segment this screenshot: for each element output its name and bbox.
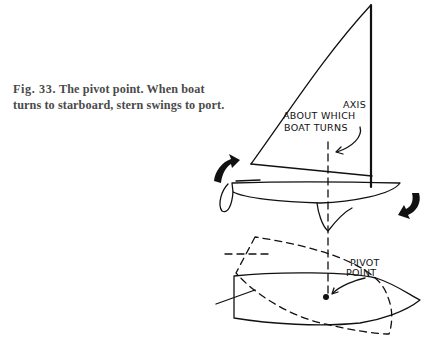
pivot-label-line2: POINT — [346, 267, 376, 278]
hull-side — [232, 182, 400, 203]
axis-label-line1: AXIS — [343, 99, 366, 110]
axis-label-line3: BOAT TURNS — [284, 122, 348, 133]
keel — [317, 203, 352, 231]
boom — [251, 164, 372, 176]
rudder — [220, 184, 233, 212]
turn-arrow-left-icon — [214, 154, 240, 183]
axis-label-line2: ABOUT WHICH — [283, 110, 356, 121]
pivot-pointer — [333, 278, 365, 293]
turn-arrow-right-icon — [398, 193, 420, 219]
deck-line — [236, 180, 260, 181]
sail-leech — [251, 6, 370, 164]
pivot-point-illustration: AXIS ABOUT WHICH BOAT TURNS PIVOT POINT — [0, 0, 435, 348]
tiller — [216, 290, 255, 304]
pivot-point-dot — [323, 294, 329, 300]
hull-rotated-outline — [236, 237, 392, 334]
